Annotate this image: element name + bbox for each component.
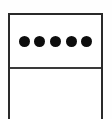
dot-2 bbox=[34, 36, 45, 47]
dot-5 bbox=[81, 36, 92, 47]
dot-1 bbox=[19, 36, 30, 47]
bordered-box bbox=[8, 13, 103, 119]
empty-cell bbox=[10, 69, 101, 119]
dot-3 bbox=[50, 36, 61, 47]
figure-canvas bbox=[0, 0, 112, 119]
dot-4 bbox=[66, 36, 77, 47]
dot-row-cell bbox=[10, 15, 101, 69]
